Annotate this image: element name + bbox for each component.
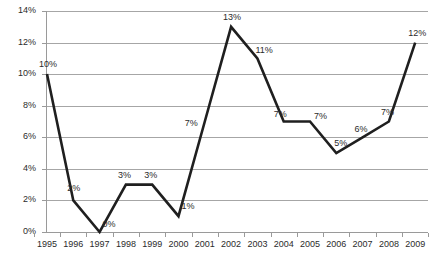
data-point-label: 6%: [355, 125, 368, 134]
data-point-label: 11%: [255, 46, 272, 55]
data-point-label: 2%: [67, 184, 80, 193]
line-chart: 0%2%4%6%8%10%12%14% 19951996199719981999…: [0, 0, 438, 254]
data-point-label: 7%: [314, 112, 327, 121]
data-point-label: 13%: [223, 13, 241, 22]
data-point-label: 10%: [39, 60, 57, 69]
data-point-label: 7%: [274, 110, 287, 119]
data-point-label: 1%: [182, 202, 195, 211]
data-point-label: 7%: [381, 108, 394, 117]
data-point-label: 0%: [103, 220, 116, 229]
data-point-label: 3%: [144, 171, 157, 180]
data-point-label: 3%: [118, 171, 131, 180]
series-line-layer: [0, 0, 438, 254]
data-point-label: 5%: [334, 139, 347, 148]
data-point-label: 7%: [185, 119, 198, 128]
data-point-label: 12%: [408, 29, 426, 38]
